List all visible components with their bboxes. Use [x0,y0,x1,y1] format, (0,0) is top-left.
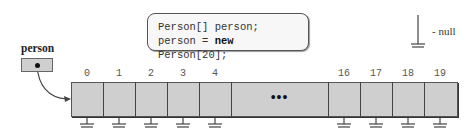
index-label-19: 19 [424,68,456,79]
cell-divider [392,82,393,117]
index-label-2: 2 [135,68,167,79]
cell-divider [360,82,361,117]
cell-divider [135,82,136,117]
cell-divider [424,82,425,117]
ground-null-icon [411,15,425,47]
cell-divider [328,82,329,117]
index-label-16: 16 [328,68,360,79]
cell-divider [103,82,104,117]
index-label-0: 0 [71,68,103,79]
index-label-1: 1 [103,68,135,79]
index-label-17: 17 [360,68,392,79]
reference-dot-icon [35,63,40,68]
ellipsis: ••• [231,90,328,106]
index-label-3: 3 [167,68,199,79]
index-label-18: 18 [392,68,424,79]
index-label-4: 4 [199,68,231,79]
cell-divider [199,82,200,117]
variable-name: person [21,42,54,54]
cell-divider [167,82,168,117]
legend-null-label: - null [432,25,456,37]
